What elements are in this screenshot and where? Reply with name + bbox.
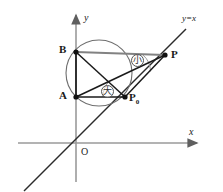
label-point-p: P bbox=[171, 49, 178, 60]
label-identity-line: y=x bbox=[182, 14, 196, 23]
label-point-a: A bbox=[59, 90, 67, 101]
angle-badge-small: 小 bbox=[131, 54, 144, 67]
angle-badge-large: 大 bbox=[101, 85, 114, 98]
label-origin: O bbox=[81, 147, 88, 157]
geometry-figure: B A P0 P y x O y=x 小 大 bbox=[0, 0, 223, 192]
point-b-dot bbox=[73, 49, 78, 54]
label-y-axis: y bbox=[84, 13, 88, 23]
segment-a-p bbox=[76, 55, 165, 97]
label-point-p0-subscript: 0 bbox=[136, 98, 140, 106]
segment-b-p bbox=[76, 52, 165, 55]
point-p-dot bbox=[162, 52, 167, 57]
label-point-p0: P0 bbox=[129, 92, 139, 106]
label-x-axis: x bbox=[189, 127, 193, 137]
point-p0-dot bbox=[122, 94, 127, 99]
label-point-b: B bbox=[59, 44, 66, 55]
label-point-p0-base: P bbox=[129, 91, 136, 103]
point-a-dot bbox=[73, 94, 78, 99]
